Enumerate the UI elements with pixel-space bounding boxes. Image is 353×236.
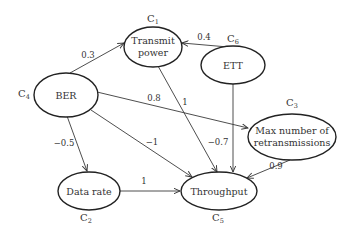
weight-ett-transmit-power: 0.4 bbox=[197, 32, 211, 42]
node-id-c3: C3 bbox=[286, 97, 298, 110]
node-id-c1: C1 bbox=[147, 13, 159, 26]
edge-transmit-power-to-throughput bbox=[158, 66, 217, 172]
node-label-line: Data rate bbox=[66, 186, 112, 197]
causal-diagram: 0.3 0.4 0.8 1 −0.5 −1 −0.7 0.9 1 Transmi… bbox=[0, 0, 353, 236]
weight-ett-throughput: −0.7 bbox=[208, 137, 229, 147]
edge-ett-to-transmit-power bbox=[182, 43, 228, 47]
edge-ber-to-max-retransmissions bbox=[97, 92, 248, 128]
edge-ber-to-transmit-power bbox=[70, 43, 124, 73]
node-label-line: power bbox=[138, 47, 169, 58]
weight-ber-data-rate: −0.5 bbox=[54, 138, 75, 148]
node-c4-ber: BER C4 bbox=[18, 73, 98, 117]
node-c5-throughput: Throughput C5 bbox=[181, 172, 257, 225]
node-c2-data-rate: Data rate C2 bbox=[58, 172, 120, 225]
node-c1-transmit-power: Transmit power C1 bbox=[124, 13, 182, 67]
node-label-line: Transmit bbox=[131, 35, 175, 46]
weight-ber-max-retransmissions: 0.8 bbox=[147, 93, 161, 103]
node-label-line: BER bbox=[55, 90, 77, 101]
weight-transmit-power-throughput: 1 bbox=[182, 97, 187, 107]
weight-max-retransmissions-throughput: 0.9 bbox=[269, 161, 283, 171]
edge-ber-to-throughput bbox=[91, 110, 192, 177]
node-label-line: Throughput bbox=[190, 186, 247, 197]
weight-ber-throughput: −1 bbox=[146, 137, 159, 147]
node-id-c6: C6 bbox=[227, 33, 239, 46]
weight-data-rate-throughput: 1 bbox=[141, 176, 146, 186]
node-label-line: retransmissions bbox=[254, 137, 331, 148]
node-label-line: ETT bbox=[223, 60, 243, 71]
node-id-c2: C2 bbox=[80, 212, 92, 225]
node-id-c5: C5 bbox=[212, 212, 224, 225]
node-label-line: Max number of bbox=[255, 125, 330, 136]
node-c3-max-retransmissions: Max number of retransmissions C3 bbox=[248, 97, 336, 160]
node-id-c4: C4 bbox=[18, 88, 30, 101]
weight-ber-transmit-power: 0.3 bbox=[81, 50, 95, 60]
